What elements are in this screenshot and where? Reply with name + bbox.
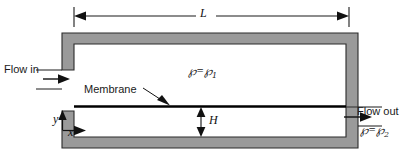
x-axis-arrowhead	[74, 126, 86, 136]
membrane-leader-arrowhead	[157, 95, 170, 106]
height-dimension-group	[197, 107, 206, 137]
height-arrowhead-top	[197, 107, 206, 117]
membrane-label: Membrane	[84, 84, 137, 95]
lower-pressure-symbol: ℘	[360, 123, 368, 137]
flow-out-label: Flow out	[357, 106, 399, 117]
length-arrowhead-right	[337, 12, 349, 21]
lower-pressure-subscript: 2	[384, 130, 389, 139]
length-dimension-label: L	[200, 7, 207, 19]
x-axis-label: x	[68, 126, 73, 138]
lower-pressure-equals: =	[368, 123, 376, 137]
membrane-leader	[143, 88, 170, 106]
height-dimension-label: H	[209, 114, 218, 126]
height-arrowhead-bottom	[197, 127, 206, 137]
upper-pressure-label: ℘=℘1	[188, 65, 217, 80]
upper-pressure-value: ℘	[204, 64, 212, 78]
flow-in-label: Flow in	[4, 64, 39, 75]
y-axis-label: y	[53, 113, 58, 125]
lower-pressure-value: ℘	[376, 123, 384, 137]
flow-in-arrowhead	[58, 74, 70, 84]
lower-pressure-label: ℘=℘2	[360, 124, 389, 139]
upper-pressure-symbol: ℘	[188, 64, 196, 78]
length-dimension-group	[74, 7, 349, 27]
length-arrowhead-left	[74, 12, 86, 21]
upper-pressure-subscript: 1	[212, 71, 217, 80]
flow-in-arrow	[43, 74, 70, 84]
upper-pressure-equals: =	[196, 64, 204, 78]
